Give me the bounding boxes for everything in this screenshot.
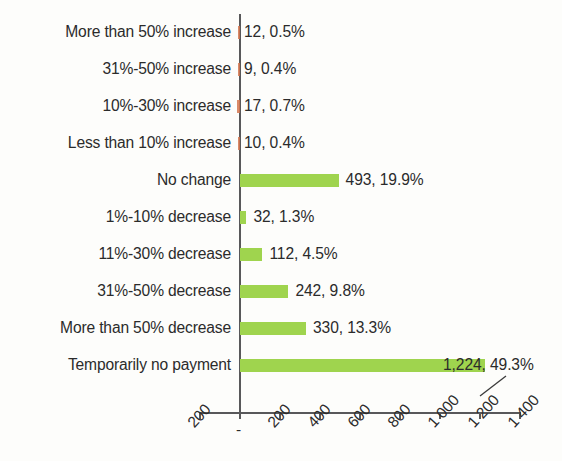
bar [240, 285, 288, 298]
callout-label: 1,224, 49.3% [443, 356, 534, 374]
value-label: 17, 0.7% [244, 95, 305, 116]
category-label: More than 50% decrease [60, 318, 231, 338]
category-label: Temporarily no payment [68, 355, 231, 375]
chart-row: No change493, 19.9% [0, 162, 562, 199]
category-label: 31%-50% decrease [97, 281, 231, 301]
x-axis-tick-label: 800 [384, 401, 414, 432]
chart-row: More than 50% decrease330, 13.3% [0, 310, 562, 347]
x-axis-tick-label: 600 [344, 401, 374, 432]
category-label: More than 50% increase [65, 22, 231, 42]
category-label: 10%-30% increase [103, 96, 232, 116]
category-label: 11%-30% decrease [98, 244, 231, 264]
bar [238, 63, 240, 76]
x-axis-tick-label: - [236, 421, 241, 439]
plot-area: 200-2004006008001 0001 2001 400 More tha… [0, 0, 562, 461]
x-axis-tick [239, 412, 240, 419]
value-label: 242, 9.8% [295, 280, 364, 301]
chart-row: 1%-10% decrease32, 1.3% [0, 199, 562, 236]
value-label: 493, 19.9% [346, 169, 424, 190]
chart-row: 10%-30% increase17, 0.7% [0, 88, 562, 125]
value-label: 10, 0.4% [244, 132, 305, 153]
bar [240, 248, 262, 261]
category-label: 1%-10% decrease [106, 207, 231, 227]
value-label: 12, 0.5% [244, 21, 305, 42]
value-label: 9, 0.4% [244, 58, 296, 79]
value-label: 112, 4.5% [269, 243, 337, 264]
bar [238, 26, 240, 39]
value-label: 330, 13.3% [313, 317, 391, 338]
category-label: No change [157, 170, 231, 190]
category-label: 31%-50% increase [103, 59, 232, 79]
chart-row: More than 50% increase12, 0.5% [0, 14, 562, 51]
bar [237, 100, 240, 113]
category-label: Less than 10% increase [68, 133, 231, 153]
chart-row: Less than 10% increase10, 0.4% [0, 125, 562, 162]
x-axis-tick-label: 200 [184, 401, 214, 432]
value-label: 32, 1.3% [253, 206, 314, 227]
chart-row: 31%-50% increase9, 0.4% [0, 51, 562, 88]
bar [240, 322, 306, 335]
bar-chart: 200-2004006008001 0001 2001 400 More tha… [0, 0, 562, 461]
x-axis-tick-label: 1 400 [504, 391, 543, 431]
chart-row: 11%-30% decrease112, 4.5% [0, 236, 562, 273]
chart-row: 31%-50% decrease242, 9.8% [0, 273, 562, 310]
x-axis-tick-label: 400 [304, 401, 334, 432]
x-axis-tick-label: 200 [264, 401, 294, 432]
bar [240, 174, 339, 187]
bar [240, 211, 246, 224]
bar [238, 137, 240, 150]
